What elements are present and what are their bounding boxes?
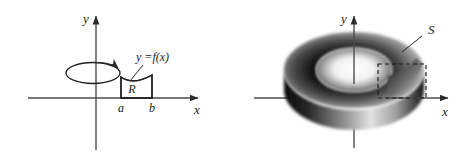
curve-label-leader	[130, 65, 143, 81]
lower-bound-label: a	[118, 101, 124, 115]
solid-panel: S x y	[236, 0, 472, 156]
region-panel: y =f(x) R a b x y	[0, 0, 236, 156]
y-axis-label-right: y	[339, 11, 347, 26]
region-label: R	[127, 82, 136, 96]
figure-root: y =f(x) R a b x y	[0, 0, 472, 156]
curve-label: y =f(x)	[135, 50, 169, 64]
rotation-arrow-ellipse	[66, 63, 120, 84]
region-R-shape	[121, 75, 152, 98]
y-axis-label-left: y	[81, 11, 89, 26]
x-axis-label-left: x	[193, 102, 200, 117]
solid-label: S	[428, 22, 435, 37]
x-axis-label-right: x	[441, 104, 448, 119]
upper-bound-label: b	[149, 101, 155, 115]
